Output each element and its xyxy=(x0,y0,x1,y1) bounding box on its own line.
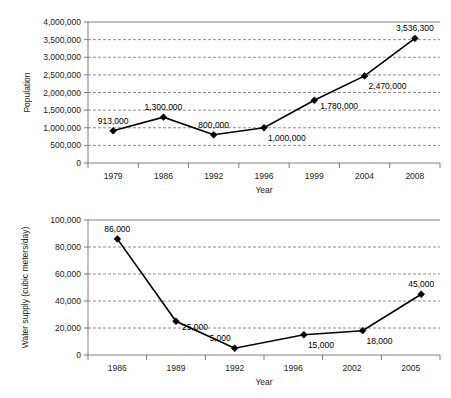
figure-container: 0500,0001,000,0001,500,0002,000,0002,500… xyxy=(0,0,451,398)
y-axis-title: Population xyxy=(22,72,32,112)
data-point-label: 18,000 xyxy=(367,336,393,346)
x-tick-label: 1989 xyxy=(167,363,186,373)
x-axis-title: Year xyxy=(255,185,272,195)
data-point-marker[interactable] xyxy=(261,124,268,131)
y-axis-title: Water supply (cubic meters/day) xyxy=(20,227,30,349)
data-point-marker[interactable] xyxy=(210,131,217,138)
x-tick-label: 1992 xyxy=(225,363,244,373)
y-tick-label: 20,000 xyxy=(55,323,81,333)
data-point-label: 25,000 xyxy=(182,322,208,332)
y-tick-label: 60,000 xyxy=(55,269,81,279)
x-tick-label: 1986 xyxy=(108,363,127,373)
x-tick-label: 2002 xyxy=(343,363,362,373)
x-tick-label: 2008 xyxy=(405,171,424,181)
population-chart: 0500,0001,000,0001,500,0002,000,0002,500… xyxy=(0,0,451,200)
y-tick-label: 80,000 xyxy=(55,242,81,252)
data-point-marker[interactable] xyxy=(311,97,318,104)
y-tick-label: 2,500,000 xyxy=(43,70,81,80)
data-point-label: 800,000 xyxy=(198,120,229,130)
data-point-label: 1,780,000 xyxy=(320,101,358,111)
data-point-label: 2,470,000 xyxy=(369,81,407,91)
population-chart-canvas: 0500,0001,000,0001,500,0002,000,0002,500… xyxy=(0,0,451,200)
data-point-marker[interactable] xyxy=(231,345,238,352)
data-point-label: 15,000 xyxy=(308,340,334,350)
x-tick-label: 1992 xyxy=(204,171,223,181)
x-tick-label: 1999 xyxy=(305,171,324,181)
y-tick-label: 3,500,000 xyxy=(43,35,81,45)
data-point-marker[interactable] xyxy=(110,127,117,134)
x-tick-label: 2005 xyxy=(401,363,420,373)
y-tick-label: 1,000,000 xyxy=(43,123,81,133)
data-point-label: 1,000,000 xyxy=(268,133,306,143)
data-point-marker[interactable] xyxy=(300,331,307,338)
y-tick-label: 0 xyxy=(76,350,81,360)
series-line-water-supply xyxy=(117,239,421,348)
y-tick-label: 500,000 xyxy=(50,140,81,150)
x-tick-label: 1996 xyxy=(284,363,303,373)
data-point-label: 913,000 xyxy=(98,116,129,126)
y-tick-label: 4,000,000 xyxy=(43,17,81,27)
data-point-label: 86,000 xyxy=(104,224,130,234)
x-axis-title: Year xyxy=(255,377,272,387)
y-tick-label: 40,000 xyxy=(55,296,81,306)
data-point-label: 5,000 xyxy=(209,333,231,343)
y-tick-label: 3,000,000 xyxy=(43,52,81,62)
water-supply-chart: 020,00040,00060,00080,000100,00019861989… xyxy=(0,198,451,398)
water-supply-chart-canvas: 020,00040,00060,00080,000100,00019861989… xyxy=(0,198,451,398)
data-point-marker[interactable] xyxy=(160,114,167,121)
y-tick-label: 1,500,000 xyxy=(43,105,81,115)
data-point-label: 1,300,000 xyxy=(145,102,183,112)
y-tick-label: 2,000,000 xyxy=(43,88,81,98)
data-point-label: 45,000 xyxy=(408,279,434,289)
data-point-label: 3,536,300 xyxy=(396,23,434,33)
x-tick-label: 1979 xyxy=(104,171,123,181)
x-tick-label: 2004 xyxy=(355,171,374,181)
y-tick-label: 100,000 xyxy=(50,215,81,225)
y-tick-label: 0 xyxy=(76,158,81,168)
x-tick-label: 1996 xyxy=(255,171,274,181)
x-tick-label: 1986 xyxy=(154,171,173,181)
